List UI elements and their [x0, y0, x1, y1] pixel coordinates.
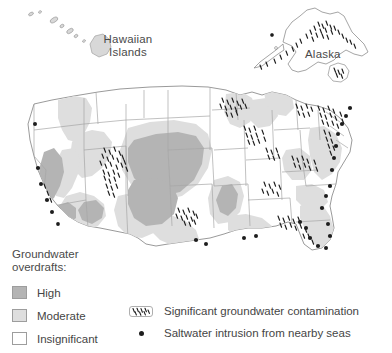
legend-item-high[interactable]: High: [12, 282, 98, 303]
northeast-islands: [328, 63, 349, 82]
legend-label-saltwater: Saltwater intrusion from nearby seas: [164, 327, 351, 339]
dot-icon: [128, 331, 154, 336]
legend-label-insignificant: Insignificant: [37, 333, 98, 345]
legend-title: Groundwater overdrafts:: [12, 248, 98, 274]
legend-label-high: High: [37, 287, 61, 299]
legend-item-contamination[interactable]: Significant groundwater contamination: [128, 300, 359, 322]
legend-label-moderate: Moderate: [37, 310, 86, 322]
swatch-moderate-icon: [12, 309, 27, 322]
legend-item-saltwater[interactable]: Saltwater intrusion from nearby seas: [128, 322, 359, 344]
legend-item-insignificant[interactable]: Insignificant: [12, 328, 98, 349]
hatch-pattern-icon: [128, 306, 154, 317]
legend-overdraft-classes: Groundwater overdrafts: High Moderate In…: [12, 248, 98, 349]
alaska-inset: [254, 8, 368, 72]
swatch-high-icon: [12, 286, 27, 299]
swatch-insignificant-icon: [12, 332, 27, 345]
groundwater-map-figure: Hawaiian Islands Alaska Groundwater over…: [0, 0, 392, 353]
legend-symbols: Significant groundwater contamination Sa…: [128, 300, 359, 344]
hawaii-inset: [28, 10, 111, 57]
legend-label-contamination: Significant groundwater contamination: [164, 305, 359, 317]
map-legend: Groundwater overdrafts: High Moderate In…: [12, 248, 384, 348]
legend-item-moderate[interactable]: Moderate: [12, 305, 98, 326]
saltwater-dot: [270, 33, 273, 36]
